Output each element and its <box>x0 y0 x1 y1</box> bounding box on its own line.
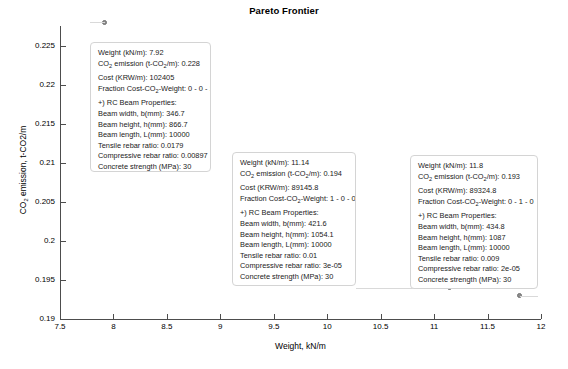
x-tick-mark <box>488 314 489 319</box>
x-tick-mark <box>327 314 328 319</box>
datatip-tensile-rebar: Tensile rebar ratio: 0.0179 <box>98 141 204 152</box>
datatip-tensile-rebar: Tensile rebar ratio: 0.009 <box>418 254 531 265</box>
y-tick-mark <box>61 46 66 47</box>
y-axis-line <box>60 26 61 320</box>
datatip-beam-length: Beam length, L(mm): 10000 <box>418 243 531 254</box>
x-tick-mark <box>113 314 114 319</box>
chart-title: Pareto Frontier <box>0 5 568 16</box>
y-axis-title: CO2 emission, t-CO2/m <box>18 70 28 270</box>
x-tick-mark <box>381 314 382 319</box>
x-tick-mark <box>220 314 221 319</box>
x-tick-mark <box>274 314 275 319</box>
datatip-point-3[interactable]: Weight (kN/m): 11.8 CO2 emission (t-CO2/… <box>410 155 538 289</box>
x-tick-mark <box>60 314 61 319</box>
datatip-cost: Cost (KRW/m): 89145.8 <box>240 183 349 194</box>
datatip-beam-height: Beam height, h(mm): 866.7 <box>98 120 204 131</box>
datatip-point-1[interactable]: Weight (kN/m): 7.92 CO2 emission (t-CO2/… <box>90 42 211 172</box>
datatip-compressive-rebar: Compressive rebar ratio: 2e-05 <box>418 264 531 275</box>
x-axis-title: Weight, kN/m <box>60 341 541 351</box>
y-tick-label: 0.195 <box>0 275 55 284</box>
x-tick-label: 9 <box>200 322 240 331</box>
datatip-beam-length: Beam length, L(mm): 10000 <box>240 240 349 251</box>
datatip-beam-width: Beam width, b(mm): 346.7 <box>98 109 204 120</box>
x-tick-label: 10 <box>307 322 347 331</box>
x-axis-line <box>60 319 541 320</box>
datatip-tensile-rebar: Tensile rebar ratio: 0.01 <box>240 251 349 262</box>
pareto-frontier-figure: Pareto Frontier 0.190.1950.20.2050.210.2… <box>0 0 568 369</box>
datatip-co2-emission: CO2 emission (t-CO2/m): 0.194 <box>240 169 349 180</box>
datatip-weight: Weight (kN/m): 11.8 <box>418 161 531 172</box>
x-tick-label: 7.5 <box>40 322 80 331</box>
datatip-cost: Cost (KRW/m): 102405 <box>98 73 204 84</box>
datatip-weight: Weight (kN/m): 11.14 <box>240 158 349 169</box>
datatip-cost: Cost (KRW/m): 89324.8 <box>418 186 531 197</box>
x-tick-label: 9.5 <box>254 322 294 331</box>
x-tick-mark <box>434 314 435 319</box>
datatip-beam-length: Beam length, L(mm): 10000 <box>98 130 204 141</box>
x-tick-label: 8 <box>93 322 133 331</box>
datatip-concrete-strength: Concrete strength (MPa): 30 <box>98 162 204 172</box>
y-tick-mark <box>61 241 66 242</box>
x-tick-label: 11.5 <box>468 322 508 331</box>
datatip-fraction: Fraction Cost-CO2-Weight: 0 - 1 - 0 <box>418 197 531 208</box>
datatip-leader-line <box>90 22 105 23</box>
x-tick-label: 11 <box>414 322 454 331</box>
datatip-props-header: +) RC Beam Properties: <box>98 98 204 109</box>
datatip-compressive-rebar: Compressive rebar ratio: 3e-05 <box>240 261 349 272</box>
datatip-point-2[interactable]: Weight (kN/m): 11.14 CO2 emission (t-CO2… <box>232 152 356 286</box>
y-tick-mark <box>61 124 66 125</box>
x-tick-label: 12 <box>521 322 561 331</box>
datatip-compressive-rebar: Compressive rebar ratio: 0.00897 <box>98 151 204 162</box>
y-tick-mark <box>61 202 66 203</box>
y-tick-mark <box>61 163 66 164</box>
y-tick-mark <box>61 280 66 281</box>
x-tick-mark <box>541 314 542 319</box>
x-tick-mark <box>167 314 168 319</box>
datatip-props-header: +) RC Beam Properties: <box>240 208 349 219</box>
datatip-fraction: Fraction Cost-CO2-Weight: 1 - 0 - 0 <box>240 194 349 205</box>
datatip-concrete-strength: Concrete strength (MPa): 30 <box>240 272 349 283</box>
datatip-props-header: +) RC Beam Properties: <box>418 211 531 222</box>
datatip-beam-width: Beam width, b(mm): 421.6 <box>240 219 349 230</box>
datatip-co2-emission: CO2 emission (t-CO2/m): 0.193 <box>418 172 531 183</box>
datatip-rebar-strength: Rebar strength (MPa): 600 <box>418 286 531 289</box>
datatip-beam-height: Beam height, h(mm): 1087 <box>418 233 531 244</box>
y-tick-label: 0.225 <box>0 41 55 50</box>
datatip-co2-emission: CO2 emission (t-CO2/m): 0.228 <box>98 59 204 70</box>
datatip-weight: Weight (kN/m): 7.92 <box>98 48 204 59</box>
datatip-concrete-strength: Concrete strength (MPa): 30 <box>418 275 531 286</box>
x-tick-label: 10.5 <box>361 322 401 331</box>
datatip-leader-line <box>520 296 538 297</box>
y-tick-mark <box>61 319 66 320</box>
x-tick-label: 8.5 <box>147 322 187 331</box>
datatip-beam-width: Beam width, b(mm): 434.8 <box>418 222 531 233</box>
datatip-fraction: Fraction Cost-CO2-Weight: 0 - 0 - 1 <box>98 84 204 95</box>
y-tick-mark <box>61 85 66 86</box>
datatip-rebar-strength: Rebar strength (MPa): 600 <box>240 283 349 286</box>
datatip-beam-height: Beam height, h(mm): 1054.1 <box>240 230 349 241</box>
